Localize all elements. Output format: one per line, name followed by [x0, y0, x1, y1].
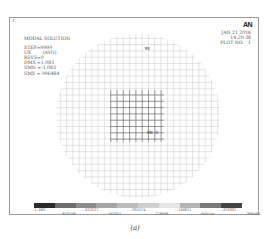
circular-mesh [10, 18, 260, 216]
legend-label: -.507051 [104, 212, 121, 216]
legend-label: -.045144 [197, 212, 214, 216]
legend-label: .996484 [245, 212, 260, 216]
legend-label: -.853156 [58, 212, 75, 216]
legend-label: -.622527 [81, 208, 98, 212]
min-marker-axis: MN X [147, 130, 158, 135]
legend-label: -.391574 [128, 208, 145, 212]
legend-label: -1.083 [32, 208, 45, 212]
plot-frame: 1 MODAL SOLUTIONSTEP=9999 UX (AVG) RSYS=… [9, 17, 259, 215]
max-marker: MX [145, 46, 150, 51]
color-legend-labels: -1.083-.853156-.622527-.507051-.391574-.… [32, 208, 262, 218]
legend-label: -.276098 [151, 212, 168, 216]
legend-label: -.160621 [174, 208, 191, 212]
legend-label: .070332 [221, 208, 236, 212]
figure-caption: (a) [0, 224, 270, 232]
